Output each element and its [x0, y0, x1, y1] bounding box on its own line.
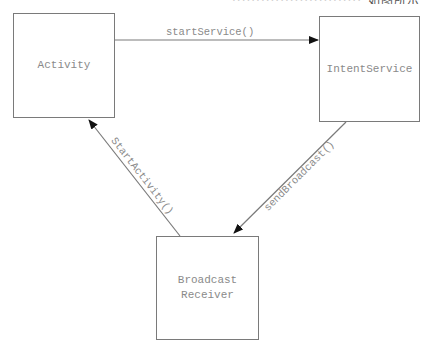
edge-start-activity [89, 120, 180, 236]
clipped-caption-light: ··························· [232, 0, 368, 4]
node-broadcast-receiver-label: Broadcast Receiver [178, 273, 237, 303]
node-intent-service-label: IntentService [327, 62, 413, 77]
edge-label-start-service: startService() [166, 26, 254, 38]
node-intent-service: IntentService [319, 16, 420, 122]
clipped-caption: ···························如图所示 [0, 0, 426, 4]
node-activity-label: Activity [38, 58, 91, 73]
clipped-caption-dark: 如图所示 [368, 0, 426, 4]
node-activity: Activity [13, 13, 115, 118]
edge-label-send-broadcast: sendBroadcast() [262, 138, 337, 213]
node-broadcast-receiver: Broadcast Receiver [156, 236, 259, 340]
edge-label-start-activity: StartActivity() [108, 135, 176, 217]
